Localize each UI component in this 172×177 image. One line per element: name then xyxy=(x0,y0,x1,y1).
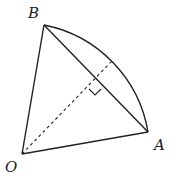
label-O: O xyxy=(5,158,17,176)
segment-OA xyxy=(22,132,148,154)
right-angle-mark xyxy=(89,89,101,95)
label-A: A xyxy=(152,136,165,154)
label-B: B xyxy=(27,4,39,22)
chord-AB xyxy=(44,25,148,132)
sector-diagram: B O A xyxy=(0,0,172,177)
